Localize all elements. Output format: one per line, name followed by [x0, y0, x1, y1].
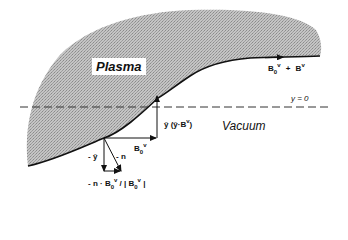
projection-label: - n · B0v / | B0v | [88, 180, 145, 188]
y-component-label: ŷ (ŷ·Bv) [164, 121, 192, 129]
boundary-field-label: B0v + Bv [268, 65, 305, 73]
minus-y-label: - ŷ [88, 153, 97, 161]
minus-n-label: - n [116, 153, 126, 161]
plasma-label: Plasma [92, 58, 146, 75]
b0v-horizontal-label: B0v [134, 145, 146, 153]
vacuum-label: Vacuum [222, 120, 266, 132]
y-zero-label: y = 0 [291, 95, 309, 103]
